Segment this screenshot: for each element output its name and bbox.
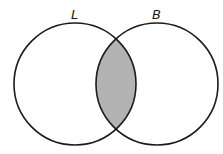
set-b-label: B xyxy=(152,7,161,22)
venn-diagram: L B xyxy=(0,0,223,154)
set-l-label: L xyxy=(71,7,78,22)
